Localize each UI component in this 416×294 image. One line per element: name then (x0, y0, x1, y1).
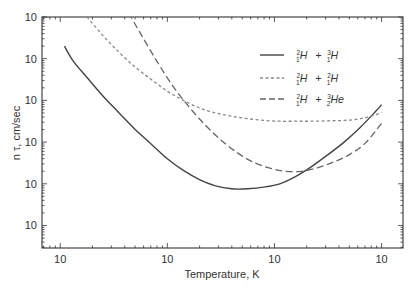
y-tick-label: 10 (25, 94, 37, 106)
y-tick-label: 10 (25, 178, 37, 190)
legend-label-dd: 21H + 21H (296, 72, 338, 86)
svg-text:21H + 21H: 21H + 21H (296, 72, 338, 86)
svg-text:21H + 31H: 21H + 31H (296, 49, 338, 63)
plot-axes: 10101010101010101010 (25, 11, 403, 265)
x-tick-label: 10 (268, 253, 280, 265)
y-tick-label: 10 (25, 219, 37, 231)
curve-d-t (65, 46, 382, 189)
legend-label-dhe3: 21H + 32He (296, 93, 344, 107)
svg-text:21H + 32He: 21H + 32He (296, 93, 344, 107)
legend: 21H + 31H 21H + 21H 21H + 32He (260, 49, 344, 107)
x-tick-label: 10 (375, 253, 387, 265)
x-tick-label: 10 (54, 253, 66, 265)
y-axis-title: n τ, cm/sec (10, 105, 22, 160)
chart-canvas: 10101010101010101010 Temperature, K n τ,… (0, 0, 416, 294)
legend-label-dt: 21H + 31H (296, 49, 338, 63)
y-tick-label: 10 (25, 136, 37, 148)
y-tick-label: 10 (25, 53, 37, 65)
y-tick-label: 10 (25, 11, 37, 23)
curve-d-d (87, 17, 382, 121)
x-axis-title: Temperature, K (184, 268, 260, 280)
x-tick-label: 10 (161, 253, 173, 265)
plot-frame (42, 17, 403, 248)
